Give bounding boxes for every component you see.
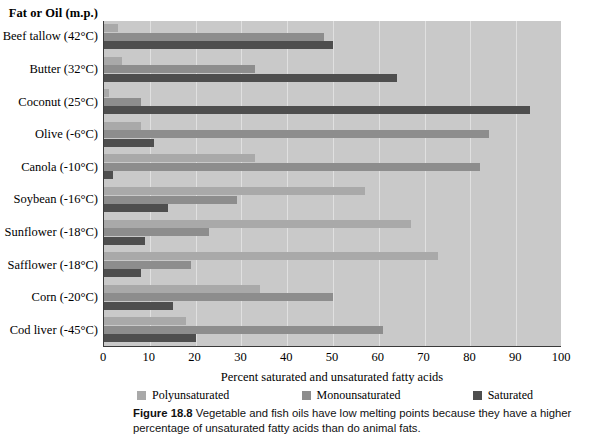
caption-text: Vegetable and fish oils have low melting… [133, 407, 571, 434]
figure-caption: Figure 18.8 Vegetable and fish oils have… [133, 406, 585, 435]
bar [104, 261, 191, 269]
bar [104, 302, 173, 310]
bar [104, 89, 109, 97]
bar-group [104, 282, 561, 315]
bar [104, 57, 122, 65]
bar [104, 24, 118, 32]
bar [104, 252, 438, 260]
bar [104, 139, 154, 147]
y-axis-label: Beef tallow (42°C) [0, 29, 98, 44]
bar [104, 98, 141, 106]
y-axis-label: Canola (-10°C) [0, 160, 98, 175]
chart-legend: PolyunsaturatedMonounsaturatedSaturated [103, 388, 561, 403]
bar-group [104, 21, 561, 54]
x-axis-tick-70: 70 [404, 350, 444, 365]
bar [104, 228, 209, 236]
bar [104, 74, 397, 82]
legend-label: Polyunsaturated [152, 388, 229, 403]
bar [104, 317, 186, 325]
x-axis-title: Percent saturated and unsaturated fatty … [103, 370, 561, 385]
x-axis-tick-60: 60 [358, 350, 398, 365]
bar [104, 326, 383, 334]
bar [104, 130, 489, 138]
legend-swatch-icon [137, 391, 146, 400]
bar-group [104, 249, 561, 282]
legend-item: Monounsaturated [302, 388, 401, 403]
bar [104, 171, 113, 179]
legend-item: Saturated [473, 388, 533, 403]
bar [104, 196, 237, 204]
figure-18-8: Fat or Oil (m.p.) Beef tallow (42°C)Butt… [0, 0, 595, 440]
bar-group [104, 314, 561, 347]
x-axis-tick-50: 50 [312, 350, 352, 365]
bar-group [104, 86, 561, 119]
y-axis-label: Coconut (25°C) [0, 95, 98, 110]
y-axis-label: Corn (-20°C) [0, 290, 98, 305]
bar [104, 237, 145, 245]
x-axis-tick-100: 100 [541, 350, 581, 365]
x-axis-tick-10: 10 [129, 350, 169, 365]
bar [104, 122, 141, 130]
x-axis-tick-40: 40 [266, 350, 306, 365]
bar-group [104, 54, 561, 87]
bar [104, 187, 365, 195]
bar [104, 204, 168, 212]
legend-label: Monounsaturated [317, 388, 401, 403]
y-axis-label: Soybean (-16°C) [0, 192, 98, 207]
x-axis-tick-0: 0 [83, 350, 123, 365]
bar [104, 41, 333, 49]
y-axis-label: Safflower (-18°C) [0, 258, 98, 273]
bar [104, 269, 141, 277]
x-axis-tick-30: 30 [220, 350, 260, 365]
bar [104, 293, 333, 301]
y-axis-label: Butter (32°C) [0, 62, 98, 77]
bar [104, 33, 324, 41]
x-axis-tick-20: 20 [175, 350, 215, 365]
y-axis-label: Olive (-6°C) [0, 127, 98, 142]
bar-group [104, 151, 561, 184]
bar [104, 163, 480, 171]
bar-group [104, 217, 561, 250]
y-axis-label: Cod liver (-45°C) [0, 323, 98, 338]
legend-swatch-icon [473, 391, 482, 400]
bar [104, 334, 196, 342]
legend-swatch-icon [302, 391, 311, 400]
plot-area [103, 21, 561, 347]
x-axis-tick-90: 90 [495, 350, 535, 365]
bar [104, 285, 260, 293]
bar [104, 65, 255, 73]
x-axis-tick-80: 80 [449, 350, 489, 365]
bar [104, 154, 255, 162]
legend-label: Saturated [488, 388, 533, 403]
bar [104, 106, 530, 114]
bar-group [104, 184, 561, 217]
legend-item: Polyunsaturated [137, 388, 229, 403]
y-axis-header: Fat or Oil (m.p.) [0, 6, 98, 21]
bar-group [104, 119, 561, 152]
figure-number: Figure 18.8 [133, 407, 193, 419]
y-axis-label: Sunflower (-18°C) [0, 225, 98, 240]
bar [104, 220, 411, 228]
